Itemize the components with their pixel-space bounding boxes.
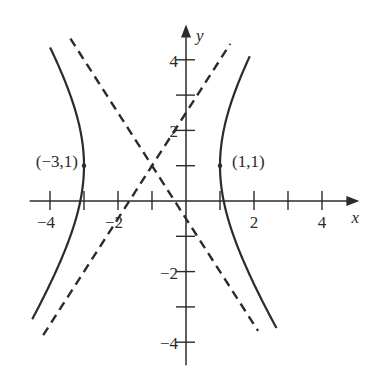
x-tick-label: 2 xyxy=(250,213,259,232)
vertex-label: (−3,1) xyxy=(36,152,78,171)
plot-area: −4−22442−2−4xy(−3,1)(1,1) xyxy=(0,0,376,385)
vertex-point xyxy=(82,164,86,168)
hyperbola-graph: −4−22442−2−4xy(−3,1)(1,1) xyxy=(0,0,376,385)
hyperbola-right-branch xyxy=(220,56,276,328)
y-axis-arrow-icon xyxy=(181,25,191,38)
y-tick-label: 4 xyxy=(170,52,179,71)
y-tick-label: −4 xyxy=(160,334,179,353)
asymptote-negative-slope xyxy=(70,39,258,331)
y-tick-label: −2 xyxy=(160,264,178,283)
x-tick-label: −4 xyxy=(37,213,56,232)
y-axis-label: y xyxy=(194,26,204,45)
asymptote-positive-slope xyxy=(43,44,230,335)
vertex-point xyxy=(218,164,222,168)
x-axis-label: x xyxy=(350,208,359,227)
x-tick-label: 4 xyxy=(318,213,327,232)
hyperbola-left-branch xyxy=(32,47,84,319)
vertex-label: (1,1) xyxy=(232,152,265,171)
x-axis-arrow-icon xyxy=(346,196,359,206)
